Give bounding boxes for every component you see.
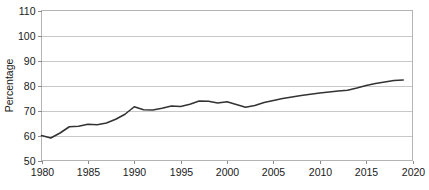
- data-series-line: [42, 80, 404, 138]
- y-tick-label: 70: [24, 105, 36, 117]
- x-tick-label: 2010: [309, 166, 333, 178]
- x-tick-label: 1990: [123, 166, 147, 178]
- x-axis-tick-labels: 198019851990199520002005201020152020: [31, 166, 426, 178]
- x-tick-label: 1980: [31, 166, 55, 178]
- y-axis-tickmarks: [38, 12, 42, 162]
- x-axis-tickmarks: [43, 161, 414, 165]
- x-tick-label: 2015: [355, 166, 379, 178]
- x-tick-label: 1985: [77, 166, 101, 178]
- x-tick-label: 1995: [170, 166, 194, 178]
- y-tick-label: 110: [19, 5, 36, 17]
- chart-container: 1101009080706050 19801985199019952000200…: [0, 0, 429, 190]
- gridlines: [42, 37, 413, 137]
- y-tick-label: 100: [18, 30, 36, 42]
- y-axis-tick-labels: 1101009080706050: [18, 5, 36, 167]
- y-axis-title: Percentage: [3, 58, 15, 112]
- x-tick-label: 2005: [262, 166, 286, 178]
- y-tick-label: 80: [24, 80, 36, 92]
- y-tick-label: 60: [24, 130, 36, 142]
- y-tick-label: 90: [24, 55, 36, 67]
- plot-area-border: [42, 11, 413, 161]
- x-tick-label: 2000: [216, 166, 240, 178]
- x-tick-label: 2020: [402, 166, 426, 178]
- line-chart: 1101009080706050 19801985199019952000200…: [0, 0, 429, 190]
